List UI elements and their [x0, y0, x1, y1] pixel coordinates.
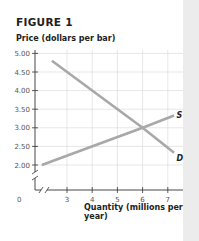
svg-text:S: S [177, 111, 183, 120]
series-lines [42, 61, 174, 165]
svg-text:4.50: 4.50 [14, 69, 30, 77]
svg-text:3: 3 [65, 196, 69, 204]
svg-text:2.50: 2.50 [14, 143, 30, 151]
svg-text:D: D [177, 154, 184, 163]
svg-text:2.00: 2.00 [14, 162, 30, 170]
svg-text:4: 4 [90, 196, 95, 204]
svg-text:3.50: 3.50 [14, 106, 30, 114]
svg-text:5: 5 [115, 196, 119, 204]
svg-text:0: 0 [17, 196, 21, 204]
curve-labels: SD [177, 111, 184, 163]
svg-text:6: 6 [140, 196, 145, 204]
svg-text:4.00: 4.00 [14, 87, 30, 95]
svg-text:7: 7 [166, 196, 170, 204]
svg-text:5.00: 5.00 [14, 50, 30, 58]
svg-text:3.00: 3.00 [14, 124, 30, 132]
chart-plot: 5.004.504.003.503.002.502.00034567 SD [0, 0, 199, 241]
